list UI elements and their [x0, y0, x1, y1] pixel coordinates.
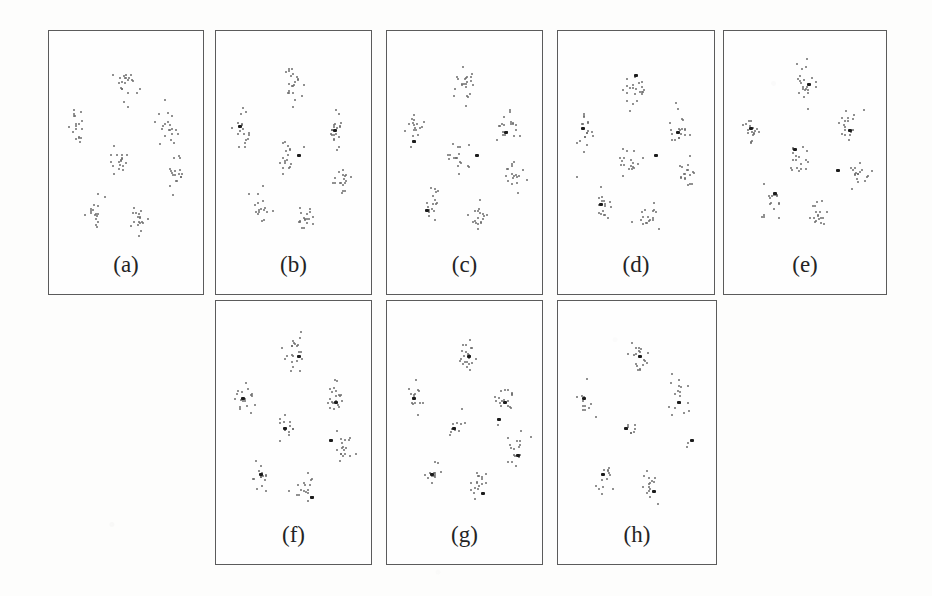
data-point — [333, 408, 335, 410]
data-point — [231, 127, 233, 129]
data-point — [339, 126, 341, 128]
data-point — [334, 182, 336, 184]
data-point — [299, 221, 301, 223]
data-point — [507, 400, 509, 402]
data-point — [236, 393, 238, 395]
data-point — [307, 492, 309, 494]
data-point — [304, 484, 306, 486]
data-point — [286, 355, 288, 357]
data-point — [509, 444, 511, 446]
data-point — [670, 382, 672, 384]
data-point — [861, 169, 863, 171]
data-point — [254, 404, 256, 406]
prototype-marker — [793, 148, 797, 151]
data-point — [171, 115, 173, 117]
data-point — [809, 217, 811, 219]
data-point — [245, 139, 247, 141]
data-point — [116, 154, 118, 156]
data-point — [646, 222, 648, 224]
data-point — [179, 169, 181, 171]
data-point — [345, 174, 347, 176]
data-point — [584, 405, 586, 407]
data-point — [461, 350, 463, 352]
data-point — [336, 380, 338, 382]
data-point — [632, 103, 634, 105]
data-point — [687, 402, 689, 404]
data-point — [680, 133, 682, 135]
data-point — [635, 363, 637, 365]
data-point — [415, 379, 417, 381]
data-point — [513, 175, 515, 177]
data-point — [647, 352, 649, 354]
data-point — [678, 379, 680, 381]
data-point — [256, 488, 258, 490]
data-point — [513, 135, 515, 137]
data-point — [478, 208, 480, 210]
data-point — [290, 75, 292, 77]
data-point — [792, 159, 794, 161]
data-point — [238, 146, 240, 148]
data-point — [257, 193, 259, 195]
data-point — [434, 472, 436, 474]
data-point — [299, 370, 301, 372]
data-point — [291, 68, 293, 70]
data-point — [327, 402, 329, 404]
data-point — [482, 213, 484, 215]
prototype-marker — [773, 192, 777, 195]
data-point — [516, 182, 518, 184]
data-point — [494, 396, 496, 398]
data-point — [583, 151, 585, 153]
data-point — [342, 169, 344, 171]
data-point — [291, 345, 293, 347]
prototype-marker — [334, 401, 338, 404]
data-point — [419, 127, 421, 129]
data-point — [843, 124, 845, 126]
data-point — [778, 202, 780, 204]
data-point — [265, 490, 267, 492]
prototype-marker — [807, 83, 811, 86]
data-point — [851, 188, 853, 190]
data-point — [674, 407, 676, 409]
data-point — [796, 63, 798, 65]
data-point — [684, 128, 686, 130]
data-point — [688, 410, 690, 412]
prototype-marker — [581, 127, 585, 130]
data-point — [642, 223, 644, 225]
data-point — [137, 224, 139, 226]
data-point — [92, 209, 94, 211]
data-point — [461, 408, 463, 410]
prototype-marker — [333, 129, 337, 132]
data-point — [158, 113, 160, 115]
data-point — [507, 168, 509, 170]
data-point — [312, 223, 314, 225]
data-point — [130, 74, 132, 76]
data-point — [748, 120, 750, 122]
data-point — [97, 205, 99, 207]
data-point — [458, 430, 460, 432]
data-point — [606, 478, 608, 480]
panel-label: (h) — [558, 522, 716, 548]
figure-panel-grid: (a)(b)(c)(d)(e)(f)(g)(h) — [0, 0, 932, 596]
prototype-marker — [452, 427, 456, 430]
data-point — [631, 221, 633, 223]
data-point — [121, 81, 123, 83]
prototype-marker — [654, 154, 658, 157]
data-point — [282, 173, 284, 175]
data-point — [140, 210, 142, 212]
data-point — [586, 378, 588, 380]
data-point — [244, 146, 246, 148]
data-point — [798, 156, 800, 158]
data-point — [423, 121, 425, 123]
prototype-marker — [690, 439, 694, 442]
prototype-marker — [836, 169, 840, 172]
data-point — [431, 482, 433, 484]
data-point — [288, 431, 290, 433]
data-point — [795, 155, 797, 157]
data-point — [300, 351, 302, 353]
data-point — [329, 398, 331, 400]
data-point — [603, 200, 605, 202]
data-point — [341, 400, 343, 402]
data-point — [586, 144, 588, 146]
data-point — [626, 100, 628, 102]
data-point — [646, 362, 648, 364]
